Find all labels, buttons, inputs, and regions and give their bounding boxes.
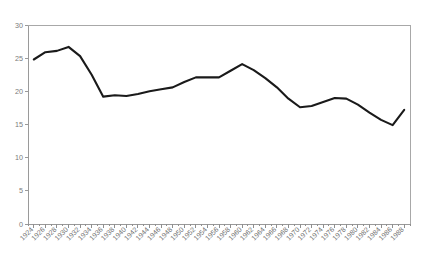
y-tick-label: 15 xyxy=(15,120,23,129)
line-chart: 051015202530 192419261928193019321934193… xyxy=(0,0,428,260)
y-tick-label: 25 xyxy=(15,54,23,63)
y-tick-label: 5 xyxy=(19,186,23,195)
chart-canvas: 051015202530 192419261928193019321934193… xyxy=(0,0,428,260)
y-tick-label: 10 xyxy=(15,153,23,162)
y-tick-label: 30 xyxy=(15,21,23,30)
y-tick-label: 0 xyxy=(19,220,23,229)
chart-background xyxy=(0,0,428,260)
y-tick-label: 20 xyxy=(15,87,23,96)
